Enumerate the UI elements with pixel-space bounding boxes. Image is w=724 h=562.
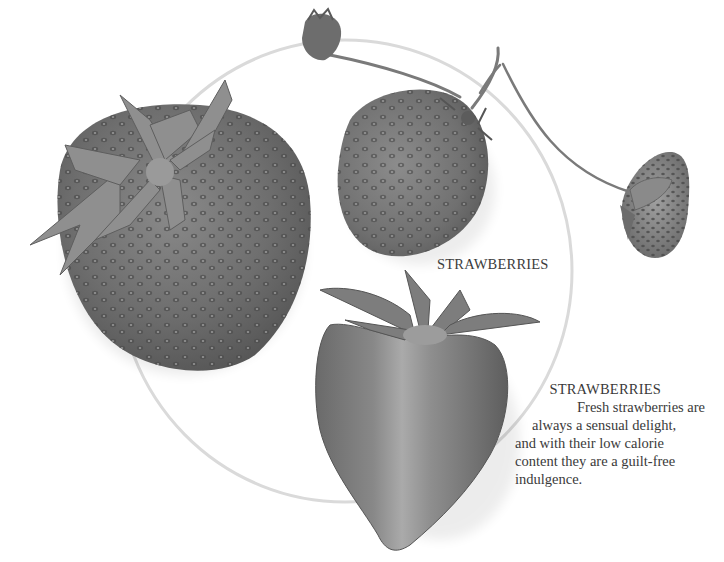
caption-line: Fresh strawberries are <box>512 398 712 416</box>
caption-line: content they are a guilt-free <box>512 452 712 470</box>
caption-title: STRAWBERRIES <box>512 380 712 398</box>
book-page: STRAWBERRIES STRAWBERRIES Fresh strawber… <box>0 0 724 562</box>
strawberry-bud <box>302 9 341 60</box>
caption-block: STRAWBERRIES Fresh strawberries are alwa… <box>512 380 712 488</box>
caption-line: indulgence. <box>512 470 712 488</box>
caption-line: and with their low calorie <box>512 434 712 452</box>
photo-label: STRAWBERRIES <box>437 256 549 273</box>
caption-line: always a sensual delight, <box>512 416 712 434</box>
small-wild-strawberry <box>620 152 689 258</box>
large-whole-strawberry <box>30 80 311 371</box>
